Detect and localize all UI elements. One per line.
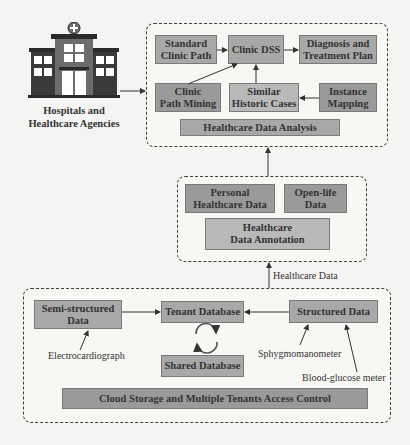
sphygmomanometer-label: Sphygmomanometer (258, 348, 341, 359)
personal-healthcare-data-box: Personal Healthcare Data (185, 184, 275, 213)
healthcare-data-flow-label: Healthcare Data (273, 270, 338, 281)
similar-historic-cases-box: Similar Historic Cases (229, 83, 299, 112)
instance-mapping-box: Instance Mapping (319, 83, 377, 112)
hospital-building-icon (28, 22, 120, 98)
electrocardiograph-label: Electrocardiograph (48, 350, 125, 361)
tenant-database-box: Tenant Database (161, 301, 244, 323)
semi-structured-data-box: Semi-structured Data (34, 300, 122, 329)
background-bleed (0, 160, 410, 175)
structured-data-box: Structured Data (289, 300, 378, 323)
healthcare-data-annotation-box: Healthcare Data Annotation (205, 218, 330, 250)
clinic-dss-box: Clinic DSS (228, 35, 284, 64)
diagnosis-treatment-box: Diagnosis and Treatment Plan (299, 35, 377, 64)
hospitals-label: Hospitals and Healthcare Agencies (18, 104, 130, 130)
blood-glucose-meter-label: Blood-glucose meter (302, 372, 386, 383)
open-life-data-box: Open-life Data (284, 184, 347, 213)
shared-database-box: Shared Database (161, 355, 244, 377)
healthcare-data-analysis-box: Healthcare Data Analysis (180, 119, 340, 136)
clinic-path-mining-box: Clinic Path Mining (155, 83, 221, 112)
standard-clinic-path-box: Standard Clinic Path (155, 35, 217, 64)
cloud-storage-access-control-box: Cloud Storage and Multiple Tenants Acces… (62, 388, 368, 409)
